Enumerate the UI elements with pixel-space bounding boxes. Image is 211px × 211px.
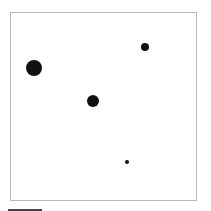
- scale-bar: [8, 209, 42, 211]
- diagram-frame: [10, 12, 197, 201]
- dot-small: [125, 160, 129, 164]
- dot-large: [26, 60, 42, 76]
- dot-top-right: [141, 43, 149, 51]
- dot-middle: [87, 95, 99, 107]
